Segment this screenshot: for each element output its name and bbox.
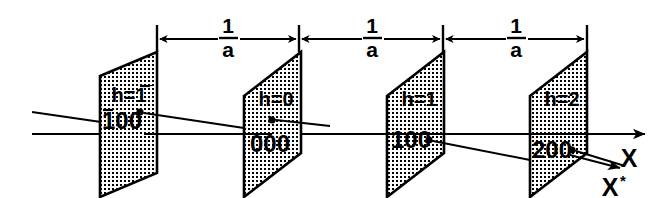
diffracted-ray-to-plane-1 [144,113,244,128]
plane-4: h=2 200 [530,52,587,197]
plane-1-h-label: h=1̅ [111,84,152,106]
dimension-segment-3: 1 a [446,14,584,61]
incident-ray-upper [32,112,101,122]
axis-x-label: X [621,144,638,172]
plane-2-h-label: h=0 [258,88,293,110]
dimension-segment-2: 1 a [302,14,440,61]
figure-canvas: 1 a 1 a 1 a h=1̅ [0,0,668,198]
plane-3-index-label: 100 [391,126,431,153]
dimension-segment-1: 1 a [160,14,296,61]
plane-3: h=1 100 [387,52,444,197]
plane-4-index-label: 200 [532,136,572,163]
plane-4-node-dot [568,146,575,153]
dimension-numerator-2: 1 [366,14,378,37]
dimension-denominator-2: a [366,38,378,61]
plane-2-node-dot [268,116,275,123]
plane-1-node-dot [136,108,143,115]
plane-4-face [530,52,587,197]
dimension-denominator-1: a [222,38,234,61]
axis-x-star-label: X [602,173,619,198]
diffraction-plane-figure: 1 a 1 a 1 a h=1̅ [0,0,668,198]
axis-x-star-asterisk: * [620,172,626,189]
diffracted-ray-to-plane-3 [433,141,530,160]
plane-4-h-label: h=2 [544,88,579,110]
dimension-denominator-3: a [510,38,522,61]
plane-3-node-dot [425,136,432,143]
dimension-numerator-3: 1 [510,14,522,37]
plane-2-face [244,52,301,197]
plane-3-h-label: h=1 [401,88,436,110]
dimension-numerator-1: 1 [222,14,234,37]
plane-1: h=1̅ 100 [100,52,157,197]
dimension-bar: 1 a 1 a 1 a [157,14,587,61]
plane-2: h=0 000 [244,52,301,197]
plane-3-face [387,52,444,197]
